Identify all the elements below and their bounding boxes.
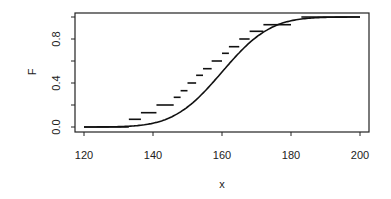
x-tick-label: 160 <box>213 149 231 161</box>
y-axis-label: F <box>26 68 38 75</box>
x-axis: 120140160180200 <box>75 132 369 161</box>
x-tick-label: 200 <box>351 149 369 161</box>
ecdf-vs-normal-cdf-chart: 0.00.40.8 120140160180200 x F <box>0 0 391 199</box>
x-axis-label: x <box>219 178 225 190</box>
y-tick-label: 0.0 <box>50 119 62 134</box>
y-tick-label: 0.8 <box>50 31 62 46</box>
normal-cdf-curve <box>84 17 360 127</box>
y-tick-label: 0.4 <box>50 75 62 90</box>
y-axis: 0.00.40.8 <box>50 17 75 135</box>
x-tick-label: 140 <box>144 149 162 161</box>
x-tick-label: 180 <box>282 149 300 161</box>
x-tick-label: 120 <box>75 149 93 161</box>
